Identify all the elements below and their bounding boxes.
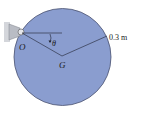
- pivot-label: O: [19, 42, 26, 52]
- disk: [14, 9, 111, 106]
- diagram-canvas: O θ G 0.3 m: [0, 0, 143, 114]
- center-label: G: [59, 60, 66, 70]
- pivot-pin-icon: [18, 29, 24, 35]
- angle-label: θ: [52, 39, 56, 48]
- radius-label: 0.3 m: [109, 33, 128, 42]
